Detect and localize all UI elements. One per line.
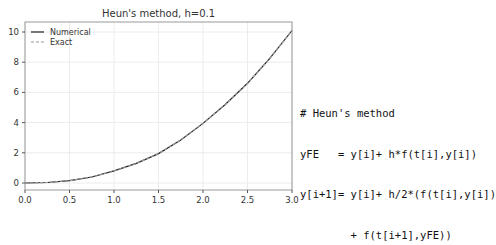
legend-label: Numerical [50, 28, 91, 37]
y-tick-label: 2 [14, 148, 19, 158]
code-snippet: # Heun's method yFE = y[i]+ h*f(t[i],y[i… [300, 80, 496, 245]
y-tick-label: 4 [14, 118, 19, 128]
chart-title: Heun's method, h=0.1 [102, 8, 215, 19]
code-line-update: y[i+1]= y[i]+ h/2*(f(t[i],y[i]) [300, 188, 496, 202]
y-tick-label: 8 [14, 57, 19, 67]
legend-label: Exact [50, 38, 72, 47]
code-line-continuation: + f(t[i+1],yFE)) [300, 229, 496, 243]
y-tick-label: 0 [14, 178, 19, 188]
x-tick-label: 2.0 [196, 195, 210, 205]
y-tick-label: 10 [8, 27, 19, 37]
x-tick-label: 3.0 [285, 195, 299, 205]
code-line-yfe: yFE = y[i]+ h*f(t[i],y[i]) [300, 148, 496, 162]
x-tick-label: 0.0 [18, 195, 32, 205]
line-chart: 0.00.51.01.52.02.53.00246810Heun's metho… [0, 0, 300, 218]
y-tick-label: 6 [14, 87, 19, 97]
x-tick-label: 2.5 [241, 195, 255, 205]
code-line-comment: # Heun's method [300, 107, 496, 121]
x-tick-label: 1.5 [152, 195, 166, 205]
x-tick-label: 1.0 [107, 195, 121, 205]
x-tick-label: 0.5 [63, 195, 77, 205]
